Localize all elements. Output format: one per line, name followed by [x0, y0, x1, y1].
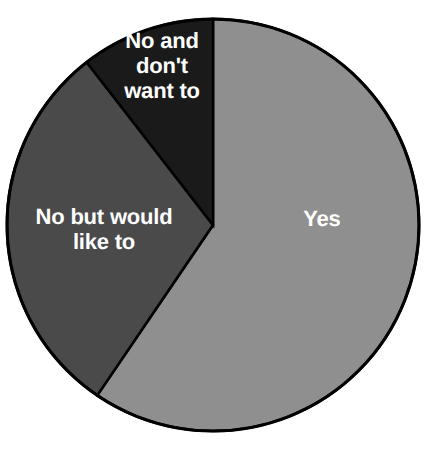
pie-chart-figure: No and don't want to No but would like t… — [0, 0, 426, 450]
pie-chart-canvas — [0, 0, 426, 450]
